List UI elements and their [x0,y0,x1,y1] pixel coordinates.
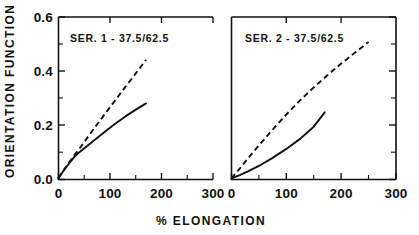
panel-2-label: SER. 2 - 37.5/62.5 [245,32,344,44]
panel-1-x-tick-labels: 0 100 200 300 [55,186,225,201]
x-axis-title: % ELONGATION [156,214,266,228]
chart-figure: ORIENTATION FUNCTION % ELONGATION 0.6 0.… [0,0,419,235]
y-tick-label-1: 0.4 [34,64,54,79]
panel-2-x-top-ticks [286,17,341,23]
panel-2-x-tick-labels: 0 100 200 300 [228,186,408,201]
panel-1-label: SER. 1 - 37.5/62.5 [70,32,169,44]
chart-svg: ORIENTATION FUNCTION % ELONGATION 0.6 0.… [0,0,419,235]
panel-2-x-tick-label-1: 100 [275,186,298,201]
y-tick-labels: 0.6 0.4 0.2 0.0 [34,10,54,187]
y-tick-label-0: 0.6 [34,10,54,25]
panel-2-x-tick-label-2: 200 [330,186,353,201]
panel-1-x-tick-label-0: 0 [55,186,63,201]
panel-1-x-top-ticks [110,17,213,23]
panel-1-x-tick-label-2: 200 [150,186,173,201]
panel-2: SER. 2 - 37.5/62.5 0 100 200 300 [228,17,408,201]
panel-1-x-tick-label-3: 300 [201,186,224,201]
panel-1: SER. 1 - 37.5/62.5 0 100 200 300 [55,17,225,201]
panel-2-x-tick-label-0: 0 [228,186,236,201]
y-tick-label-3: 0.0 [34,172,53,187]
panel-1-solid-curve [59,103,147,178]
panel-2-x-tick-label-3: 300 [384,186,407,201]
panel-2-dashed-curve [232,42,369,179]
y-tick-label-2: 0.2 [34,118,53,133]
panel-1-x-tick-label-1: 100 [98,186,121,201]
y-axis-title: ORIENTATION FUNCTION [3,4,17,178]
